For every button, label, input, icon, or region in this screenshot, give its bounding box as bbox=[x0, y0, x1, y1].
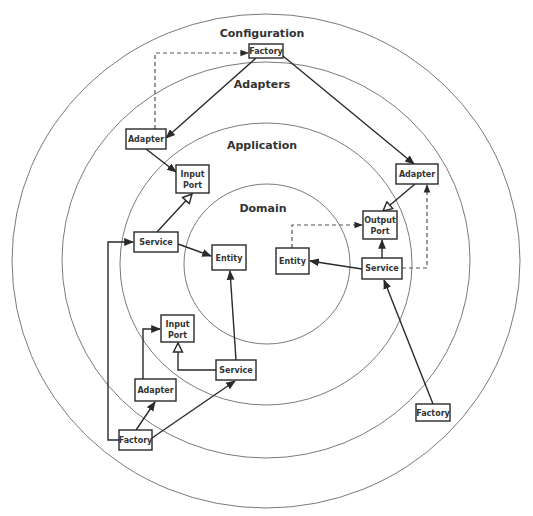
node-factory-right-label: Factory bbox=[416, 409, 450, 418]
node-input-port-top-line1: Input bbox=[181, 170, 205, 179]
node-service-left-label: Service bbox=[139, 238, 173, 247]
node-input-port-top-line2: Port bbox=[183, 181, 202, 190]
node-factory-bottom-label: Factory bbox=[119, 436, 153, 445]
node-output-port-line2: Port bbox=[370, 227, 389, 236]
node-entity-right: Entity bbox=[276, 248, 309, 274]
node-input-port-bottom: Input Port bbox=[161, 315, 194, 342]
node-factory-right: Factory bbox=[416, 404, 451, 421]
layer-label-application: Application bbox=[227, 139, 297, 152]
node-input-port-bottom-line1: Input bbox=[166, 320, 190, 329]
node-factory-bottom: Factory bbox=[119, 430, 153, 450]
node-adapter-right-label: Adapter bbox=[399, 170, 435, 179]
node-service-bottom: Service bbox=[216, 360, 256, 380]
node-output-port: Output Port bbox=[363, 211, 397, 239]
node-factory-top-label: Factory bbox=[249, 47, 283, 56]
node-entity-right-label: Entity bbox=[279, 257, 307, 266]
node-input-port-bottom-line2: Port bbox=[168, 331, 187, 340]
node-adapter-bottom: Adapter bbox=[135, 379, 176, 401]
node-input-port-top: Input Port bbox=[176, 165, 209, 193]
node-service-left: Service bbox=[134, 232, 178, 252]
node-adapter-right: Adapter bbox=[396, 164, 438, 184]
layer-label-domain: Domain bbox=[239, 202, 286, 215]
node-service-bottom-label: Service bbox=[219, 366, 253, 375]
layer-label-adapters: Adapters bbox=[234, 78, 291, 91]
node-adapter-bottom-label: Adapter bbox=[137, 386, 173, 395]
architecture-diagram: Configuration Adapters Application Domai… bbox=[0, 0, 533, 516]
node-service-right: Service bbox=[362, 258, 402, 279]
node-entity-left-label: Entity bbox=[216, 254, 244, 263]
node-service-right-label: Service bbox=[365, 264, 399, 273]
node-factory-top: Factory bbox=[249, 44, 284, 58]
layer-label-configuration: Configuration bbox=[220, 27, 305, 40]
ring-adapters bbox=[62, 62, 470, 458]
node-adapter-left: Adapter bbox=[126, 129, 166, 149]
node-adapter-left-label: Adapter bbox=[128, 135, 164, 144]
node-output-port-line1: Output bbox=[364, 216, 396, 225]
node-entity-left: Entity bbox=[212, 245, 246, 270]
